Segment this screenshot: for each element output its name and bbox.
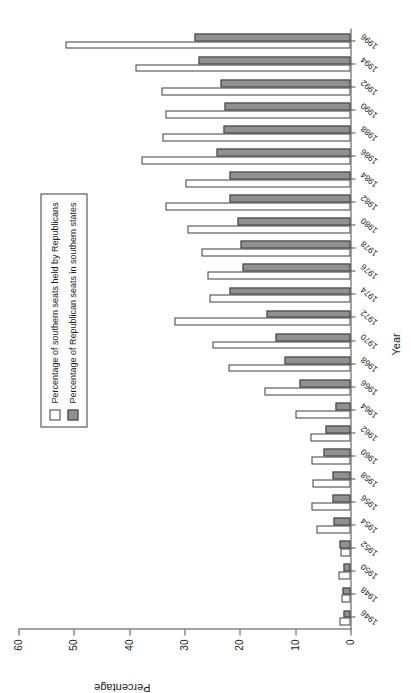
legend-label: Percentage of southern seats held by Rep… — [49, 202, 60, 403]
x-tick-mark — [350, 201, 355, 202]
x-tick-mark — [350, 432, 355, 433]
bar — [333, 517, 350, 525]
x-tick-mark — [350, 109, 355, 110]
x-axis-title: Year — [389, 333, 401, 355]
x-tick-mark — [350, 363, 355, 364]
y-tick-label: 40 — [122, 639, 135, 650]
x-tick-mark — [350, 270, 355, 271]
x-tick-mark — [350, 316, 355, 317]
bar — [266, 310, 350, 318]
bar — [141, 156, 350, 164]
y-tick: 20 — [239, 629, 240, 635]
x-tick-mark — [350, 409, 355, 410]
x-tick-mark — [350, 616, 355, 617]
bar — [310, 433, 350, 441]
bar — [323, 448, 350, 456]
y-tick-label: 30 — [177, 639, 190, 650]
y-tick: 40 — [129, 629, 130, 635]
bar — [343, 563, 350, 571]
x-tick-mark — [350, 293, 355, 294]
x-tick-mark — [350, 63, 355, 64]
bar — [338, 571, 350, 579]
x-tick-mark — [350, 155, 355, 156]
y-tick: 30 — [184, 629, 185, 635]
bar — [212, 341, 350, 349]
x-tick-mark — [350, 386, 355, 387]
x-tick-mark — [350, 547, 355, 548]
y-tick-mark — [239, 629, 240, 635]
bar — [275, 333, 350, 341]
bar — [343, 610, 350, 618]
y-tick-label: 60 — [11, 639, 24, 650]
y-tick-label: 10 — [288, 639, 301, 650]
bar — [342, 587, 350, 595]
y-tick-label: 50 — [66, 639, 79, 650]
bar — [264, 387, 350, 395]
legend: Percentage of southern seats held by Rep… — [40, 193, 87, 427]
bar — [187, 225, 350, 233]
bar — [224, 102, 350, 110]
bar — [161, 87, 350, 95]
bar — [242, 263, 350, 271]
bar — [341, 594, 350, 602]
bar — [165, 110, 350, 118]
bar — [228, 364, 350, 372]
bar — [335, 402, 350, 410]
y-tick: 0 — [350, 629, 351, 635]
bar — [216, 148, 350, 156]
y-tick: 60 — [18, 629, 19, 635]
bar — [284, 356, 350, 364]
y-tick-label: 20 — [232, 639, 245, 650]
bar — [340, 548, 350, 556]
bar — [339, 540, 350, 548]
bar — [311, 502, 350, 510]
y-tick: 50 — [73, 629, 74, 635]
bar — [207, 271, 350, 279]
bar — [174, 317, 350, 325]
x-tick-mark — [350, 524, 355, 525]
y-tick-label: 0 — [343, 639, 356, 645]
x-tick-mark — [350, 247, 355, 248]
x-tick-mark — [350, 40, 355, 41]
bar — [240, 240, 350, 248]
bar — [332, 494, 350, 502]
x-tick-mark — [350, 593, 355, 594]
bar — [185, 179, 350, 187]
bar — [201, 248, 350, 256]
legend-item-southern-seats-held-by-republicans: Percentage of southern seats held by Rep… — [47, 202, 62, 420]
y-tick-mark — [73, 629, 74, 635]
bar — [295, 410, 350, 418]
legend-label: Percentage of Republican seats in southe… — [67, 202, 78, 403]
x-tick-mark — [350, 455, 355, 456]
y-tick-mark — [129, 629, 130, 635]
bar — [165, 202, 350, 210]
y-axis-title: Percentage — [94, 681, 150, 693]
bar — [312, 479, 350, 487]
legend-swatch-gray — [67, 409, 78, 420]
bar — [194, 33, 350, 41]
y-tick: 10 — [295, 629, 296, 635]
legend-item-republican-seats-in-southern-states: Percentage of Republican seats in southe… — [65, 202, 80, 420]
bar — [220, 79, 350, 87]
y-tick-mark — [184, 629, 185, 635]
bar — [65, 41, 350, 49]
bar — [237, 217, 350, 225]
bar — [311, 456, 350, 464]
bar — [325, 425, 350, 433]
x-tick-mark — [350, 501, 355, 502]
y-tick-mark — [295, 629, 296, 635]
x-tick-mark — [350, 178, 355, 179]
bar — [332, 471, 350, 479]
bar — [135, 64, 350, 72]
bar — [162, 133, 350, 141]
bar — [229, 194, 350, 202]
bar — [299, 379, 350, 387]
bar — [229, 171, 350, 179]
x-tick-mark — [350, 570, 355, 571]
bar — [198, 56, 350, 64]
bar — [339, 617, 350, 625]
legend-swatch-white — [49, 409, 60, 420]
bar — [209, 294, 350, 302]
